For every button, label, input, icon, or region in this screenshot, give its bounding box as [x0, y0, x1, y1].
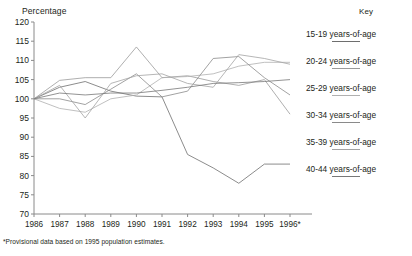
- legend-swatch-icon: [332, 95, 360, 96]
- x-tick-label: 1988: [76, 220, 95, 229]
- x-tick-label: 1994: [230, 220, 249, 229]
- series-line: [34, 80, 290, 99]
- y-tick-label: 105: [15, 75, 29, 85]
- legend-item-40-44[interactable]: 40-44 years-of-age: [306, 164, 406, 177]
- legend-label: 35-39 years-of-age: [306, 137, 406, 147]
- x-tick-label: 1987: [50, 220, 69, 229]
- legend-label: 40-44 years-of-age: [306, 164, 406, 174]
- legend-item-25-29[interactable]: 25-29 years-of-age: [306, 83, 406, 96]
- legend-swatch-icon: [332, 122, 360, 123]
- legend-swatch-icon: [332, 68, 360, 69]
- legend-item-15-19[interactable]: 15-19 years-of-age: [306, 29, 406, 42]
- y-tick-label: 95: [20, 113, 30, 123]
- legend-label: 20-24 years-of-age: [306, 56, 406, 66]
- y-tick-label: 100: [15, 94, 29, 104]
- y-tick-label: 85: [20, 151, 30, 161]
- x-tick-label: 1986: [25, 220, 44, 229]
- x-tick-label: 1990: [127, 220, 146, 229]
- y-tick-label: 80: [20, 171, 30, 181]
- x-tick-label: 1992: [178, 220, 197, 229]
- chart-figure: Percentage 70758085909510010511011512019…: [0, 0, 412, 256]
- legend-title: Key: [359, 7, 373, 16]
- x-tick-label: 1995: [255, 220, 274, 229]
- y-tick-label: 110: [15, 55, 29, 65]
- legend-item-20-24[interactable]: 20-24 years-of-age: [306, 56, 406, 69]
- series-line: [34, 47, 290, 114]
- y-tick-label: 70: [20, 209, 30, 219]
- legend-item-30-34[interactable]: 30-34 years-of-age: [306, 110, 406, 123]
- x-tick-label: 1989: [102, 220, 121, 229]
- chart-footnote: *Provisional data based on 1995 populati…: [3, 238, 165, 245]
- y-tick-label: 115: [15, 36, 29, 46]
- legend-swatch-icon: [332, 176, 360, 177]
- legend-label: 30-34 years-of-age: [306, 110, 406, 120]
- legend-label: 15-19 years-of-age: [306, 29, 406, 39]
- legend-swatch-icon: [332, 149, 360, 150]
- y-tick-label: 90: [20, 132, 30, 142]
- x-tick-label: 1991: [153, 220, 172, 229]
- legend-label: 25-29 years-of-age: [306, 83, 406, 93]
- y-tick-label: 120: [15, 17, 29, 27]
- legend-item-35-39[interactable]: 35-39 years-of-age: [306, 137, 406, 150]
- legend-swatch-icon: [332, 41, 360, 42]
- series-line: [34, 62, 290, 112]
- x-tick-label: 1996*: [279, 220, 301, 229]
- y-tick-label: 75: [20, 190, 30, 200]
- x-tick-label: 1993: [204, 220, 223, 229]
